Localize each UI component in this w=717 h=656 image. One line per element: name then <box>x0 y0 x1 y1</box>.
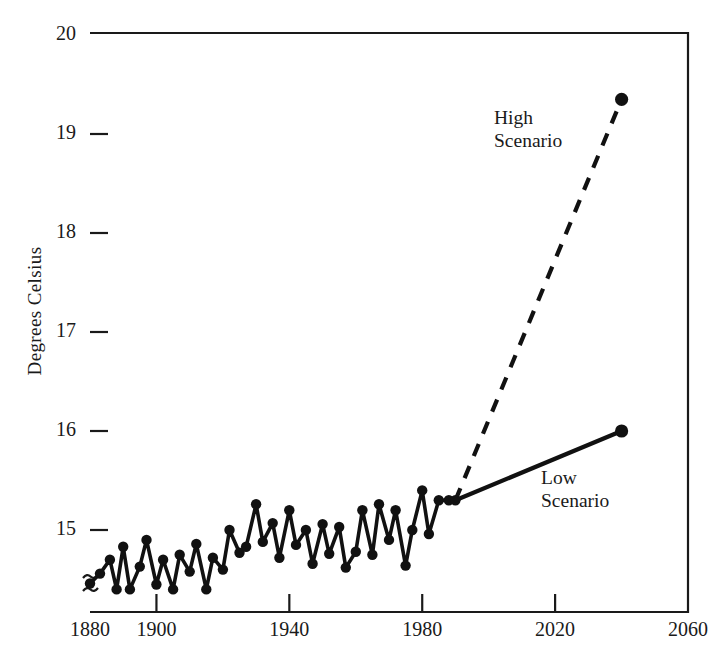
x-tick-label-1980: 1980 <box>382 618 462 641</box>
data-point <box>224 525 234 535</box>
high-scenario-endpoint <box>615 93 628 106</box>
x-tick-label-2020: 2020 <box>515 618 595 641</box>
data-point <box>201 584 211 594</box>
data-point <box>208 553 218 563</box>
data-point <box>111 584 121 594</box>
data-point <box>400 560 410 570</box>
y-tick-label-17: 17 <box>30 319 76 342</box>
data-point <box>95 568 105 578</box>
data-point <box>284 505 294 515</box>
data-point <box>118 542 128 552</box>
data-point <box>258 537 268 547</box>
y-tick-label-18: 18 <box>30 220 76 243</box>
data-point <box>151 579 161 589</box>
data-point <box>317 519 327 529</box>
low-scenario-annotation: Low Scenario <box>541 466 609 512</box>
low-scenario-endpoint-marker <box>615 424 628 437</box>
data-point <box>367 550 377 560</box>
data-point <box>374 499 384 509</box>
data-point <box>334 522 344 532</box>
data-point <box>268 518 278 528</box>
y-tick-label-16: 16 <box>30 418 76 441</box>
data-point <box>341 562 351 572</box>
temperature-projection-chart <box>0 0 717 656</box>
x-tick-label-2060: 2060 <box>648 618 717 641</box>
data-point <box>158 555 168 565</box>
data-point <box>417 485 427 495</box>
data-point <box>141 535 151 545</box>
data-point <box>324 549 334 559</box>
data-point <box>274 553 284 563</box>
data-point <box>357 505 367 515</box>
data-point <box>351 547 361 557</box>
y-tick-label-20: 20 <box>30 22 76 45</box>
data-point <box>384 535 394 545</box>
data-point <box>105 555 115 565</box>
y-tick-label-19: 19 <box>30 121 76 144</box>
data-point <box>191 539 201 549</box>
x-tick-label-1940: 1940 <box>249 618 329 641</box>
data-point <box>125 584 135 594</box>
data-point <box>424 529 434 539</box>
data-point <box>291 540 301 550</box>
data-point <box>434 495 444 505</box>
data-point <box>85 578 95 588</box>
data-point <box>241 542 251 552</box>
x-tick-label-1900: 1900 <box>116 618 196 641</box>
data-point <box>185 566 195 576</box>
y-tick-label-15: 15 <box>30 517 76 540</box>
data-point <box>168 584 178 594</box>
data-point <box>407 525 417 535</box>
data-point <box>301 525 311 535</box>
low-scenario-endpoint <box>615 424 628 437</box>
data-point <box>251 499 261 509</box>
high-scenario-endpoint-marker <box>615 93 628 106</box>
high-scenario-annotation: High Scenario <box>494 106 562 152</box>
data-point <box>218 564 228 574</box>
data-point <box>307 559 317 569</box>
data-point <box>175 550 185 560</box>
data-point <box>390 505 400 515</box>
data-point <box>135 561 145 571</box>
